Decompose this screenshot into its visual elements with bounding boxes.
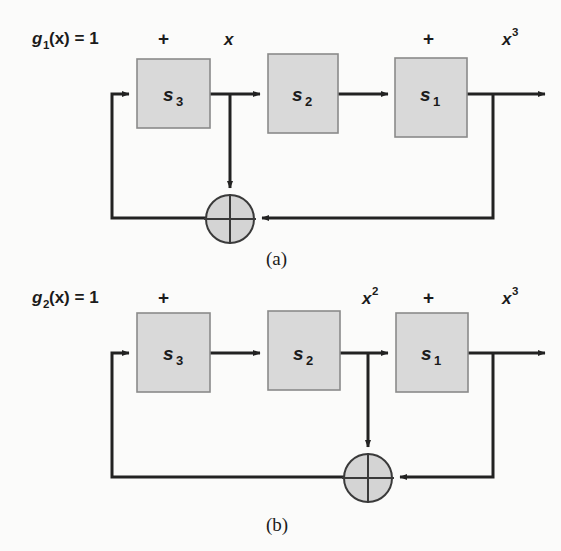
block-s2-rect (268, 54, 338, 133)
input-label-base: g (31, 29, 43, 48)
input-label-rest: (x) = 1 (49, 29, 99, 48)
block-s3-a: s 3 (137, 59, 210, 128)
block-s1-label-sub: 1 (433, 94, 440, 109)
input-label-base: g (31, 288, 43, 307)
block-s3-label: s (163, 343, 174, 364)
x-cubed-exponent: 3 (512, 285, 518, 297)
plus-right-label-b: + (423, 287, 434, 308)
block-s2-label: s (293, 343, 304, 364)
block-s2-label-sub: 2 (306, 353, 313, 368)
caption-b: (b) (266, 514, 288, 536)
caption-a: (a) (266, 248, 287, 270)
input-label-a: g 1 (x) = 1 (31, 29, 99, 51)
plus-right-label-a: + (423, 28, 434, 49)
block-s2-b: s 2 (268, 311, 340, 390)
plus-left-label-a: + (158, 28, 169, 49)
figure-container: s 3 s 2 s 1 g 1 (x) = 1 + x + x 3 (a) (0, 0, 561, 551)
block-s1-b: s 1 (396, 313, 468, 392)
block-s1-label: s (420, 84, 431, 105)
block-s1-rect (396, 313, 468, 392)
block-s3-b: s 3 (137, 313, 210, 392)
block-s1-label-sub: 1 (434, 353, 441, 368)
x-cubed-label-a: x 3 (501, 26, 518, 49)
x-cubed-exponent: 3 (512, 26, 518, 38)
block-s2-label: s (292, 84, 303, 105)
x-squared-exponent: 2 (372, 285, 378, 297)
panel-a: s 3 s 2 s 1 g 1 (x) = 1 + x + x 3 (a) (0, 0, 561, 280)
block-s2-rect (268, 311, 340, 390)
block-s2-a: s 2 (268, 54, 338, 133)
x-squared-label-b: x 2 (361, 285, 378, 308)
summing-junction-b (342, 453, 394, 503)
input-label-b: g 2 (x) = 1 (31, 288, 99, 310)
block-s3-label-sub: 3 (176, 94, 183, 109)
summing-junction-a (204, 194, 256, 244)
block-s1-a: s 1 (395, 58, 467, 137)
block-s3-label: s (163, 84, 174, 105)
block-s2-label-sub: 2 (305, 94, 312, 109)
block-s1-rect (395, 58, 467, 137)
x-cubed-label-b: x 3 (501, 285, 518, 308)
plus-left-label-b: + (158, 287, 169, 308)
x-label-a: x (223, 30, 235, 49)
input-label-rest: (x) = 1 (49, 288, 99, 307)
block-s3-label-sub: 3 (176, 353, 183, 368)
panel-b: s 3 s 2 s 1 g 2 (x) = 1 + x 2 + x 3 (0, 271, 561, 551)
block-s1-label: s (421, 343, 432, 364)
